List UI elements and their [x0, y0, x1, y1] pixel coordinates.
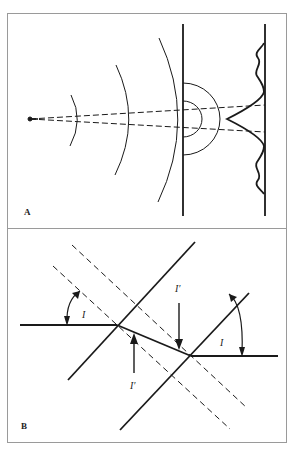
- interference-pattern: [227, 43, 264, 194]
- angle-label-i-left: I: [82, 309, 85, 320]
- panel-b: [20, 242, 278, 430]
- refracted-ray: [20, 325, 278, 356]
- angle-label-i-prime-bottom: I′: [130, 380, 136, 391]
- diffracted-wavefronts: [183, 83, 220, 155]
- angle-label-i-right: I: [220, 337, 223, 348]
- panel-a: [28, 24, 265, 216]
- normal-lines-dashed: [53, 245, 247, 429]
- panel-label-a: A: [24, 207, 31, 217]
- interface-2: [120, 293, 249, 430]
- panel-label-b: B: [21, 421, 27, 431]
- figure-canvas: [0, 0, 298, 452]
- interface-1: [68, 242, 195, 380]
- refraction-arrows: [134, 303, 179, 373]
- angle-label-i-prime-top: I′: [175, 283, 181, 294]
- incident-wavefronts: [70, 38, 178, 202]
- figure-frame: [8, 14, 287, 443]
